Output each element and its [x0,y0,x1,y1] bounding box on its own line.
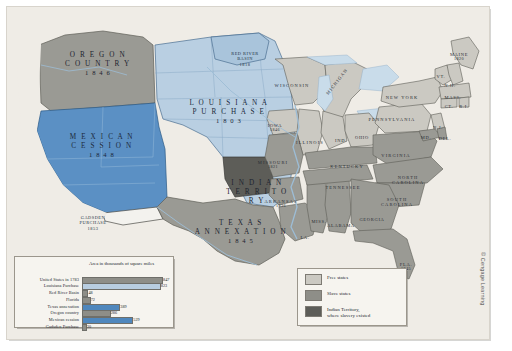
state-label-maine: MAINE1820 [447,52,471,62]
chart-rows: United States in 1783847Louisiana Purcha… [19,276,169,330]
state-label-georgia: GEORGIA [356,217,388,222]
state-label-arkansas: ARKANSAS1836 [264,199,298,209]
legend-item-indian-territory: Indian Territory, where slavery existed [305,306,406,319]
legend-label-free-states: Free states [327,274,348,281]
territory-label-louisiana-purchase: L O U I S I A N AP U R C H A S E1 8 0 3 [183,99,275,125]
chart-value-label: 72 [91,297,95,302]
state-label-north-carolina: NORTH CAROLINA [391,175,425,185]
state-label-massachusetts: MASS. [444,95,462,100]
chart-category-label: Oregon country [19,310,82,315]
chart-row: Mexican cession529 [19,316,169,322]
state-label-rhode-island: R.I. [459,104,470,109]
chart-row: United States in 1783847 [19,276,169,282]
legend-item-free-states: Free states [305,274,406,285]
chart-value-label: 847 [163,277,169,282]
chart-value-label: 30 [87,324,91,329]
state-label-wisconsin: WISCONSIN [271,83,313,88]
map-legend: Free statesSlave statesIndian Territory,… [297,268,407,326]
state-label-maryland: MD. [420,135,433,140]
state-label-alabama: ALABAMA [325,223,357,228]
state-label-iowa: IOWA1846 [264,123,286,133]
chart-category-label: Texas annexation [19,304,82,309]
chart-category-label: Red River Basin [19,290,82,295]
chart-value-label: 389 [120,304,126,309]
chart-category-label: Florida [19,297,82,302]
territory-label-oregon-country: O R E G O NC O U N T R Y1 8 4 6 [55,51,141,77]
state-label-delaware: DEL. [438,136,452,141]
legend-swatch-indian-territory [305,306,322,317]
copyright-credit: © Cengage Learning [480,252,486,305]
legend-swatch-slave-states [305,290,322,301]
state-label-new-hampshire: N.H. [444,83,457,88]
chart-row: Louisiana Purchase823 [19,283,169,289]
chart-category-label: Mexican cession [19,317,82,322]
territory-label-gadsden-purchase: GADSDEN PURCHASE 1853 [69,215,117,231]
state-label-kentucky: KENTUCKY [328,164,366,169]
territory-label-texas-annexation: T E X A SA N N E X A T I O N1 8 4 5 [193,219,289,245]
state-label-virginia: VIRGINIA [379,153,413,158]
area-bar-chart: Area in thousands of square miles United… [14,256,174,328]
chart-category-label: United States in 1783 [19,277,82,282]
chart-row: Florida72 [19,296,169,302]
chart-row: Texas annexation389 [19,303,169,309]
chart-value-label: 48 [88,290,92,295]
state-label-connecticut: CT. [444,104,455,109]
chart-title: Area in thousands of square miles [89,261,167,267]
legend-label-indian-territory: Indian Territory, where slavery existed [327,306,370,319]
territory-label-mexican-cession: M E X I C A NC E S S I O N1 8 4 8 [63,133,141,159]
legend-label-slave-states: Slave states [327,290,350,297]
chart-row: Oregon country286 [19,310,169,316]
map-figure: O R E G O NC O U N T R Y1 8 4 6L O U I S… [0,0,512,351]
state-label-new-york: NEW YORK [383,95,421,100]
chart-category-label: Gadsden Purchase [19,324,82,329]
chart-row: Gadsden Purchase30 [19,323,169,329]
state-label-south-carolina: SOUTH CAROLINA [380,197,414,207]
chart-value-label: 529 [133,317,139,322]
state-label-illinois: ILLINOIS [295,140,325,145]
state-label-ohio: OHIO [352,135,372,140]
chart-row: Red River Basin48 [19,289,169,295]
state-label-pennsylvania: PENNSYLVANIA [368,117,416,122]
state-label-tennessee: TENNESSEE [322,185,364,190]
state-label-louisiana: LA. [298,235,312,240]
state-label-new-jersey: N.J. [432,125,444,130]
legend-swatch-free-states [305,274,322,285]
state-label-vermont: VT. [435,74,447,79]
chart-value-label: 823 [161,283,167,288]
state-label-indiana: IND. [333,138,349,143]
legend-item-slave-states: Slave states [305,290,406,301]
state-label-missouri: MISSOURI1821 [256,160,290,170]
territory-label-red-river-basin: RED RIVER BASIN 1818 [223,51,267,67]
chart-value-label: 286 [111,310,117,315]
chart-category-label: Louisiana Purchase [19,283,82,288]
